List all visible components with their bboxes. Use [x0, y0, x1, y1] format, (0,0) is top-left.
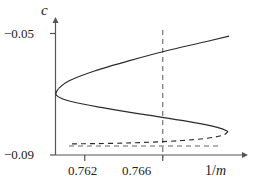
y-axis-title: c	[41, 2, 48, 19]
x-axis-title-denominator: m	[216, 163, 226, 178]
middle-branch	[56, 89, 228, 132]
x-axis-title: 1/m	[205, 163, 226, 179]
x-tick-label-left: 0.762	[68, 163, 97, 179]
lower-branch	[58, 36, 229, 88]
chart-canvas	[0, 0, 255, 188]
x-axis-title-numerator: 1/	[205, 163, 216, 178]
y-tick-label-bottom: −0.09	[4, 147, 34, 163]
x-tick-label-right: 0.766	[122, 163, 151, 179]
upper-branch-unstable	[72, 131, 228, 143]
y-tick-label-top: −0.05	[4, 26, 34, 42]
bifurcation-chart: c −0.05 −0.09 0.762 0.766 1/m	[0, 0, 255, 188]
